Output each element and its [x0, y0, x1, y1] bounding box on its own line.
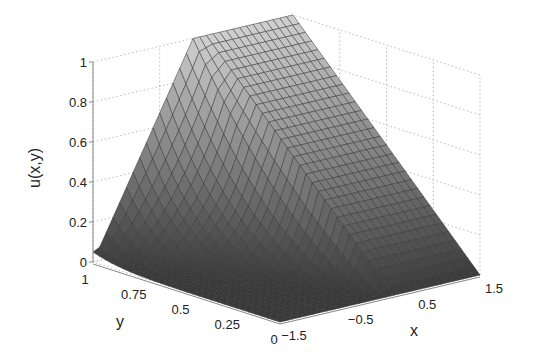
x-tick-label: −0.5 [348, 312, 374, 327]
surface-plot: 00.20.40.60.8110.750.50.250−1.5−0.50.51.… [0, 0, 537, 359]
z-tick-label: 0.6 [69, 135, 87, 150]
x-tick-label: −1.5 [281, 328, 307, 343]
y-tick-label: 0.25 [215, 317, 240, 332]
x-tick-label: 1.5 [485, 281, 503, 296]
z-tick-label: 0.4 [69, 175, 87, 190]
z-tick-label: 0 [80, 255, 87, 270]
z-tick-label: 1 [80, 55, 87, 70]
surface-mesh [93, 15, 480, 322]
y-tick-label: 0 [270, 332, 277, 347]
y-axis-label: y [116, 313, 124, 330]
y-tick-label: 0.75 [121, 287, 146, 302]
z-tick-label: 0.8 [69, 95, 87, 110]
y-tick-label: 1 [81, 272, 88, 287]
x-axis-label: x [410, 322, 418, 339]
z-tick-label: 0.2 [69, 215, 87, 230]
x-tick-label: 0.5 [418, 297, 436, 312]
z-axis-label: u(x,y) [26, 148, 43, 188]
y-tick-label: 0.5 [171, 302, 189, 317]
